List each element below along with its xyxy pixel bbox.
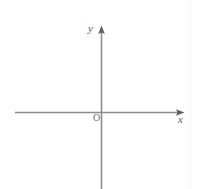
axes-drawing [0, 0, 203, 189]
x-axis-label: x [178, 114, 183, 125]
coordinate-axes-figure: y x O [0, 0, 203, 189]
y-axis-label: y [88, 23, 93, 34]
origin-label: O [93, 113, 100, 123]
scan-edge-artifact [190, 0, 191, 189]
